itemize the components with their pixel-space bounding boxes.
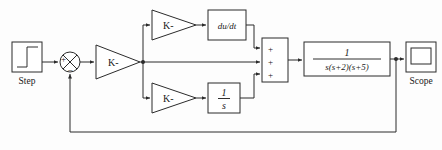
scope-caption: Scope: [409, 76, 432, 86]
integrator-numerator: 1: [222, 87, 227, 98]
triangle-gain-icon-derivative[interactable]: [152, 10, 196, 40]
triangle-gain-icon-integral[interactable]: [152, 83, 196, 113]
block-diagram-svg: Step + − K- K- du/dt K-: [0, 0, 442, 150]
integrator-denominator: s: [222, 100, 226, 111]
plant-denominator: s(s+2)(s+5): [325, 62, 369, 72]
wire-branch-to-gain-integral: [143, 62, 150, 98]
wire-branch-to-gain-derivative: [143, 25, 150, 62]
derivative-label: du/dt: [218, 21, 237, 31]
block-sum-error[interactable]: + −: [60, 52, 80, 75]
gain-integral-label: K-: [163, 93, 174, 104]
block-derivative[interactable]: du/dt: [208, 10, 246, 40]
plant-numerator: 1: [345, 47, 350, 58]
scope-screen-icon: [411, 48, 431, 64]
sum-sign-positive: +: [61, 54, 66, 64]
block-sum-three[interactable]: + + +: [262, 38, 288, 82]
block-gain-main[interactable]: K-: [96, 45, 140, 79]
gain-derivative-label: K-: [163, 20, 174, 31]
sum-three-outline[interactable]: [262, 38, 288, 82]
block-gain-derivative[interactable]: K-: [152, 10, 196, 40]
block-diagram-canvas: Step + − K- K- du/dt K-: [0, 0, 442, 150]
step-caption: Step: [19, 76, 36, 86]
sum-three-sign-2: +: [268, 57, 273, 67]
block-gain-integral[interactable]: K-: [152, 83, 196, 113]
sum-three-sign-1: +: [268, 44, 273, 54]
gain-main-label: K-: [108, 57, 119, 68]
block-integrator[interactable]: 1 s: [208, 83, 240, 113]
wire-derivative-to-sum: [246, 25, 260, 48]
block-plant[interactable]: 1 s(s+2)(s+5): [304, 42, 390, 76]
sum-three-sign-3: +: [268, 70, 273, 80]
block-step[interactable]: Step: [12, 42, 42, 86]
block-scope[interactable]: Scope: [406, 42, 436, 86]
wire-integrator-to-sum: [240, 74, 260, 98]
sum-sign-negative: −: [67, 65, 72, 75]
